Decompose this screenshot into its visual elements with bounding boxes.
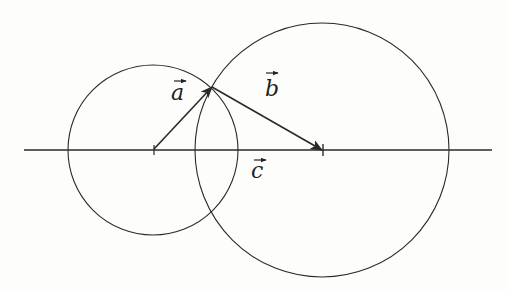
vector-circles-diagram: a b c <box>0 0 508 290</box>
label-a: a <box>171 80 186 105</box>
label-c: c <box>251 158 266 183</box>
svg-text:c: c <box>251 158 263 183</box>
svg-text:a: a <box>171 80 184 105</box>
label-b: b <box>265 73 279 101</box>
diagram-canvas: a b c <box>0 0 508 290</box>
svg-text:b: b <box>265 76 279 101</box>
